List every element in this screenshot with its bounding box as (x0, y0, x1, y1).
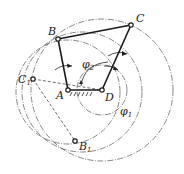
label-phi2: φ2 (82, 58, 95, 72)
label-C1: C1 (18, 73, 31, 87)
link-CD-rocker (102, 25, 131, 90)
label-B1: B1 (78, 140, 92, 154)
link-AB-crank (58, 39, 68, 90)
joint-A (66, 88, 70, 92)
four-bar-linkage-diagram: B C A D C1 B1 φ2 φ1 (0, 0, 184, 174)
links (58, 25, 131, 90)
joint-D (100, 88, 104, 92)
label-C: C (136, 12, 145, 25)
label-B: B (47, 25, 56, 38)
arrow-icon (67, 64, 72, 69)
label-A: A (55, 89, 64, 102)
label-phi1: φ1 (120, 105, 132, 119)
circle-left-large (22, 32, 142, 152)
link-BC-coupler (58, 25, 131, 39)
label-D: D (104, 91, 114, 104)
joint-C (129, 23, 133, 27)
joint-B (56, 37, 60, 41)
joint-C1 (31, 77, 35, 81)
joint-B1 (73, 139, 77, 143)
ground-hatch (70, 92, 92, 96)
arrow-icon (113, 66, 118, 70)
